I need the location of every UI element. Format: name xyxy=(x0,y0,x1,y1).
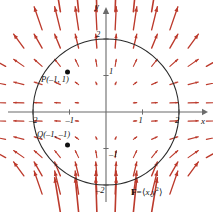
x-tick-label: –1 xyxy=(66,116,75,125)
x-tick-label: –2 xyxy=(29,116,38,125)
angle-close: ⟩ xyxy=(159,187,163,197)
vector-field-figure: x y P(–1, 1) Q(–1, –1) F=⟨x,y2⟩ –2–112–2… xyxy=(0,0,213,212)
y-tick-label: 2 xyxy=(96,30,100,39)
point-label-q: Q(–1, –1) xyxy=(37,130,70,139)
y-tick-label: 1 xyxy=(109,67,113,76)
point-marker-q xyxy=(65,143,70,148)
x-axis-label: x xyxy=(201,117,205,126)
x-tick-label: 1 xyxy=(139,116,143,125)
y-tick-label: –2 xyxy=(96,186,105,195)
point-label-p: P(–1, 1) xyxy=(41,75,69,84)
field-formula: F=⟨x,y2⟩ xyxy=(131,186,163,197)
axes-group xyxy=(8,7,208,202)
y-tick-label: –1 xyxy=(109,150,118,159)
vector-field-canvas xyxy=(0,0,213,212)
y-axis-label: y xyxy=(95,2,99,11)
x-tick-label: 2 xyxy=(175,116,179,125)
